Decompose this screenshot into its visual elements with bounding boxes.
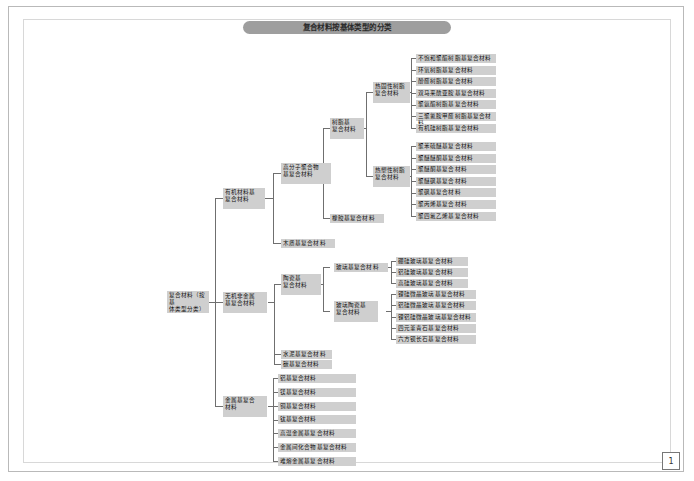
leaf-thermoset-5[interactable]: 聚氨酯树脂基复合材料: [416, 100, 496, 109]
leaf-metal-4[interactable]: 钛基复合材料: [278, 415, 356, 424]
node-cement-matrix[interactable]: 水泥基复合材料: [281, 350, 332, 359]
node-thermoplastic-resin[interactable]: 热塑性树脂 复合材料: [373, 166, 410, 187]
leaf-metal-5[interactable]: 高温金属基复合材料: [278, 429, 356, 438]
leaf-glass-ceramic-4[interactable]: 四元堇青石基复合材料: [396, 324, 476, 333]
leaf-metal-2[interactable]: 镁基复合材料: [278, 388, 356, 397]
connector: [215, 406, 223, 407]
leaf-glass-ceramic-5[interactable]: 六方钡长石基复合材料: [396, 335, 476, 344]
page-number-badge: 1: [662, 452, 680, 470]
diagram-title: 复合材料按基体类型的分类: [243, 21, 451, 34]
node-polymer-matrix[interactable]: 高分子聚合物 基复合材料: [281, 163, 331, 184]
leaf-thermoset-4[interactable]: 双马来酰亚胺基复合材料: [416, 89, 496, 98]
connector: [273, 173, 281, 174]
connector: [274, 364, 281, 365]
diagram-page: 复合材料按基体类型的分类 1: [0, 0, 694, 481]
leaf-thermoset-6[interactable]: 三聚氰胺甲醛树脂基复合材料: [416, 112, 496, 121]
node-organic-matrix[interactable]: 有机材料基 复合材料: [223, 188, 265, 209]
connector: [274, 354, 281, 355]
page-number-text: 1: [668, 457, 673, 466]
node-glass-matrix[interactable]: 玻璃基复合材料: [334, 263, 388, 272]
diagram-title-text: 复合材料按基体类型的分类: [303, 24, 392, 32]
connector: [366, 92, 373, 93]
leaf-thermoplastic-5[interactable]: 聚砜基复合材料: [416, 188, 496, 197]
node-glass-ceramic-matrix[interactable]: 玻璃陶瓷基 复合材料: [334, 301, 378, 322]
node-root[interactable]: 复合材料（按基 体类型分类）: [167, 291, 209, 313]
connector: [274, 284, 275, 364]
leaf-thermoset-3[interactable]: 酚醛树脂基复合材料: [416, 77, 496, 86]
connector: [273, 173, 274, 243]
leaf-metal-1[interactable]: 铝基复合材料: [278, 374, 356, 383]
connector: [366, 92, 367, 176]
leaf-glass-ceramic-2[interactable]: 铝硅微晶玻璃基复合材料: [396, 301, 476, 310]
node-inorganic-nonmetal-matrix[interactable]: 无机非金属 基复合材料: [223, 292, 267, 313]
leaf-thermoplastic-1[interactable]: 聚苯硫醚基复合材料: [416, 142, 496, 151]
leaf-glass-ceramic-1[interactable]: 锂硅微晶玻璃基复合材料: [396, 290, 476, 299]
leaf-glass-3[interactable]: 高硅玻璃基复合材料: [396, 279, 468, 288]
leaf-glass-2[interactable]: 铝硅玻璃基复合材料: [396, 268, 468, 277]
leaf-metal-6[interactable]: 金属间化合物基复合材料: [278, 443, 356, 452]
connector: [323, 267, 324, 311]
leaf-glass-ceramic-3[interactable]: 锂铝硅微晶玻璃基复合材料: [396, 313, 476, 322]
node-ceramic-matrix[interactable]: 陶瓷基 复合材料: [281, 274, 321, 295]
leaf-thermoset-1[interactable]: 不饱和聚酯树脂基复合材料: [416, 54, 496, 63]
connector: [265, 198, 273, 199]
node-wood-matrix[interactable]: 木质基复合材料: [281, 239, 335, 248]
connector: [273, 243, 281, 244]
leaf-thermoplastic-4[interactable]: 聚醚砜基复合材料: [416, 177, 496, 186]
leaf-thermoset-7[interactable]: 有机硅树脂基复合材料: [416, 124, 496, 133]
connector: [323, 218, 330, 219]
node-resin-matrix[interactable]: 树脂基 复合材料: [330, 118, 364, 139]
leaf-metal-3[interactable]: 铜基复合材料: [278, 402, 356, 411]
leaf-thermoset-2[interactable]: 环氧树脂基复合材料: [416, 66, 496, 75]
node-thermoset-resin[interactable]: 热固性树脂 复合材料: [373, 82, 410, 103]
connector: [215, 198, 223, 199]
leaf-thermoplastic-2[interactable]: 聚醚醚酮基复合材料: [416, 154, 496, 163]
node-metal-matrix[interactable]: 金属基复合 材料: [223, 396, 267, 417]
connector: [323, 311, 330, 312]
connector: [323, 128, 330, 129]
leaf-glass-1[interactable]: 硼硅玻璃基复合材料: [396, 257, 468, 266]
node-rubber-matrix[interactable]: 橡胶基复合材料: [330, 214, 384, 223]
connector: [366, 176, 373, 177]
leaf-thermoplastic-6[interactable]: 聚丙烯基复合材料: [416, 200, 496, 209]
connector: [215, 302, 223, 303]
connector: [323, 267, 330, 268]
leaf-thermoplastic-7[interactable]: 聚四氟乙烯基复合材料: [416, 212, 496, 221]
leaf-metal-7[interactable]: 难熔金属基复合材料: [278, 457, 356, 466]
connector: [274, 284, 281, 285]
node-carbon-matrix[interactable]: 碳基复合材料: [281, 360, 332, 369]
leaf-thermoplastic-3[interactable]: 聚醚酮基复合材料: [416, 165, 496, 174]
